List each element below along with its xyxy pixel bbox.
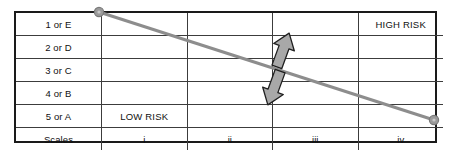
cell-r1-i <box>102 13 188 36</box>
row-label-2: 2 or D <box>16 36 102 59</box>
low-risk-label: LOW RISK <box>102 105 188 128</box>
cell-r3-iv <box>358 59 443 82</box>
scale-iii: iii <box>273 128 359 151</box>
cell-r5-iii <box>273 105 359 128</box>
scale-i: i <box>102 128 188 151</box>
cell-r1-ii <box>187 13 273 36</box>
cell-r5-ii <box>187 105 273 128</box>
row-label-1: 1 or E <box>16 13 102 36</box>
table-row: 1 or E HIGH RISK <box>16 13 443 36</box>
cell-r4-i <box>102 82 188 105</box>
risk-matrix-diagram: 1 or E HIGH RISK 2 or D 3 or C <box>0 0 450 152</box>
row-label-scales: Scales <box>16 128 102 151</box>
table-row: 5 or A LOW RISK <box>16 105 443 128</box>
cell-r4-iii <box>273 82 359 105</box>
table-row: 4 or B <box>16 82 443 105</box>
cell-r4-iv <box>358 82 443 105</box>
cell-r2-i <box>102 36 188 59</box>
cell-r3-i <box>102 59 188 82</box>
cell-r3-iii <box>273 59 359 82</box>
cell-r5-iv <box>358 105 443 128</box>
scale-ii: ii <box>187 128 273 151</box>
high-risk-label: HIGH RISK <box>358 13 443 36</box>
table-row: 3 or C <box>16 59 443 82</box>
row-label-5: 5 or A <box>16 105 102 128</box>
cell-r4-ii <box>187 82 273 105</box>
scale-iv: iv <box>358 128 443 151</box>
cell-r2-iii <box>273 36 359 59</box>
cell-r3-ii <box>187 59 273 82</box>
row-label-3: 3 or C <box>16 59 102 82</box>
risk-table: 1 or E HIGH RISK 2 or D 3 or C <box>14 11 437 143</box>
table-row: Scales i ii iii iv <box>16 128 443 151</box>
row-label-4: 4 or B <box>16 82 102 105</box>
cell-r2-iv <box>358 36 443 59</box>
table-row: 2 or D <box>16 36 443 59</box>
cell-r1-iii <box>273 13 359 36</box>
cell-r2-ii <box>187 36 273 59</box>
